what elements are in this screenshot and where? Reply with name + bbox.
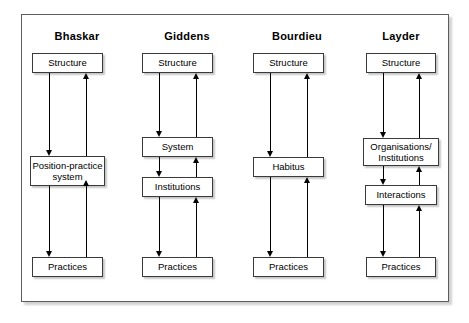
arrow-head-habitus-to-structure-up — [304, 73, 310, 79]
node-bhaskar-position-practice-system: Position-practice system — [30, 156, 105, 186]
node-layder-structure: Structure — [366, 53, 436, 73]
node-bourdieu-practices: Practices — [253, 257, 324, 277]
column-giddens: Giddens Structure System — [132, 15, 242, 301]
node-giddens-institutions: Institutions — [142, 177, 213, 197]
node-giddens-system: System — [142, 137, 213, 157]
arrow-line-practices-to-interactions-up — [419, 211, 420, 257]
diagram-frame: Bhaskar Structure Position-practice syst… — [21, 14, 449, 302]
arrow-head-system-to-structure-up — [193, 73, 199, 79]
node-layder-organisations-institutions: Organisations/ Institutions — [363, 138, 439, 166]
arrow-head-pps-to-structure-up — [83, 73, 89, 79]
arrow-line-organisations-to-structure-up — [419, 79, 420, 138]
node-label-line2: system — [52, 171, 82, 182]
column-layder: Layder Structure Organisations/ Institut… — [352, 15, 450, 301]
column-title-layder: Layder — [352, 30, 450, 42]
arrow-line-structure-to-pps-down — [49, 73, 50, 150]
arrow-line-structure-to-habitus-down — [270, 73, 271, 151]
arrow-line-pps-to-structure-up — [86, 79, 87, 156]
node-label: Practices — [381, 261, 420, 272]
node-label: Practices — [269, 261, 308, 272]
diagram-root: Bhaskar Structure Position-practice syst… — [0, 0, 469, 323]
node-giddens-practices: Practices — [142, 257, 213, 277]
arrow-line-interactions-to-organisations-up — [419, 172, 420, 185]
node-bourdieu-structure: Structure — [253, 53, 324, 73]
node-layder-interactions: Interactions — [365, 185, 437, 205]
arrow-head-practices-to-habitus-up — [304, 177, 310, 183]
node-label: Structure — [158, 57, 197, 68]
arrow-line-interactions-to-practices-down — [383, 205, 384, 251]
column-bhaskar: Bhaskar Structure Position-practice syst… — [22, 15, 132, 301]
arrow-line-habitus-to-structure-up — [307, 79, 308, 157]
node-label-line1: Organisations/ — [370, 141, 431, 152]
arrow-head-practices-to-institutions-up — [193, 197, 199, 203]
node-label-line2: Institutions — [378, 152, 423, 163]
arrow-line-practices-to-habitus-up — [307, 183, 308, 257]
node-layder-practices: Practices — [366, 257, 436, 277]
node-label: Institutions — [155, 181, 200, 192]
arrow-head-interactions-to-organisations-up — [416, 166, 422, 172]
arrow-line-institutions-to-system-up — [196, 163, 197, 177]
node-bhaskar-practices: Practices — [32, 257, 103, 277]
node-label: Structure — [382, 57, 421, 68]
node-giddens-structure: Structure — [142, 53, 213, 73]
node-label: Structure — [48, 57, 87, 68]
node-label: Habitus — [272, 161, 304, 172]
arrow-line-habitus-to-practices-down — [270, 177, 271, 251]
column-title-bhaskar: Bhaskar — [22, 30, 132, 42]
columns-container: Bhaskar Structure Position-practice syst… — [22, 15, 448, 301]
column-bourdieu: Bourdieu Structure Habitus — [242, 15, 352, 301]
node-label-line1: Position-practice — [32, 160, 102, 171]
arrow-line-pps-to-practices-down — [49, 186, 50, 251]
node-label: Structure — [269, 57, 308, 68]
node-label: Practices — [158, 261, 197, 272]
arrow-line-structure-to-organisations-down — [383, 73, 384, 132]
arrow-line-organisations-to-interactions-down — [383, 166, 384, 179]
column-title-bourdieu: Bourdieu — [242, 30, 352, 42]
node-label: System — [162, 141, 194, 152]
arrow-head-practices-to-pps-up — [83, 180, 89, 186]
arrow-head-practices-to-interactions-up — [416, 205, 422, 211]
node-label: Practices — [48, 261, 87, 272]
arrow-line-practices-to-pps-up — [86, 186, 87, 257]
node-bhaskar-structure: Structure — [32, 53, 103, 73]
node-label: Interactions — [376, 189, 425, 200]
column-title-giddens: Giddens — [132, 30, 242, 42]
arrow-line-system-to-structure-up — [196, 79, 197, 137]
arrow-head-institutions-to-system-up — [193, 157, 199, 163]
arrow-line-structure-to-system-down — [159, 73, 160, 131]
arrow-head-organisations-to-structure-up — [416, 73, 422, 79]
arrow-line-institutions-to-practices-down — [159, 197, 160, 251]
arrow-line-system-to-institutions-down — [159, 157, 160, 171]
arrow-line-practices-to-institutions-up — [196, 203, 197, 257]
node-bourdieu-habitus: Habitus — [253, 157, 324, 177]
